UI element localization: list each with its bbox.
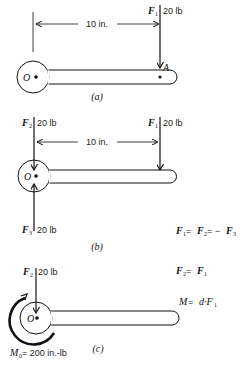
- force-magnitude: 20 lb: [163, 6, 183, 16]
- moment-label: M 0 = 200 in.-lb: [9, 347, 67, 359]
- svg-text:1: 1: [155, 123, 158, 129]
- caption-c: (c): [92, 343, 104, 355]
- lever-arm: O: [18, 160, 177, 192]
- pivot-dot: [34, 75, 38, 79]
- equation-c1: F 2 = F 1: [175, 265, 207, 277]
- pivot-dot: [35, 316, 39, 320]
- svg-text:20 lb: 20 lb: [38, 267, 58, 277]
- svg-text:F: F: [196, 225, 204, 236]
- caption-b: (b): [91, 241, 103, 253]
- svg-text:F: F: [225, 225, 233, 236]
- svg-text:M: M: [178, 296, 188, 307]
- svg-text:20 lb: 20 lb: [37, 225, 57, 235]
- point-a-label: A: [162, 62, 170, 73]
- svg-text:10 in.: 10 in.: [86, 137, 108, 147]
- force-f1-arrow: F 1 20 lb: [147, 117, 183, 170]
- svg-text:F: F: [147, 117, 155, 128]
- svg-text:20 lb: 20 lb: [37, 118, 57, 128]
- dimension-a: 10 in.: [36, 19, 158, 29]
- lever-arm: O A: [17, 61, 177, 93]
- svg-text:F: F: [196, 265, 204, 276]
- svg-text:2: 2: [30, 272, 33, 278]
- svg-text:F: F: [21, 224, 29, 235]
- svg-text:F: F: [21, 117, 29, 128]
- lever-force-diagram: 10 in. F 1 20 lb O A (a) F 2 20 lb F: [0, 0, 240, 367]
- svg-text:M: M: [9, 347, 19, 358]
- svg-text:3: 3: [29, 230, 32, 236]
- force-f1-arrow: F 1 20 lb: [147, 5, 183, 68]
- svg-text:O: O: [24, 171, 31, 182]
- pivot-label: O: [23, 72, 30, 83]
- svg-text:d·F: d·F: [199, 296, 214, 307]
- lever-arm: O: [20, 302, 179, 334]
- svg-text:=: =: [186, 226, 191, 236]
- svg-text:O: O: [27, 313, 34, 324]
- svg-text:3: 3: [233, 231, 236, 237]
- svg-text:2: 2: [29, 123, 32, 129]
- svg-text:=: =: [188, 297, 193, 307]
- svg-text:1: 1: [155, 11, 158, 17]
- equation-b: F 1 = F 2 = − F 3: [175, 225, 236, 237]
- svg-text:20 lb: 20 lb: [163, 118, 183, 128]
- figure-c: F 2 20 lb F 2 = F 1 M = d·F 1 O: [9, 265, 217, 359]
- svg-text:1: 1: [204, 271, 207, 277]
- svg-text:F: F: [147, 5, 155, 16]
- svg-text:1: 1: [214, 302, 217, 308]
- svg-text:F: F: [175, 265, 183, 276]
- equation-c2: M = d·F 1: [178, 296, 217, 308]
- figure-b: F 2 20 lb F 1 20 lb 10 in. O F 3 20 lb: [18, 117, 236, 253]
- figure-a: 10 in. F 1 20 lb O A (a): [17, 5, 183, 103]
- svg-text:F: F: [175, 225, 183, 236]
- svg-text:= −: = −: [207, 226, 220, 236]
- dimension-b: 10 in.: [37, 137, 157, 147]
- svg-text:F: F: [22, 266, 30, 277]
- force-f3-arrow: F 3 20 lb: [21, 184, 57, 236]
- force-f2-arrow: F 2 20 lb: [22, 266, 58, 313]
- svg-text:= 200 in.-lb: = 200 in.-lb: [22, 348, 67, 358]
- caption-a: (a): [91, 91, 103, 103]
- dimension-label: 10 in.: [86, 19, 108, 29]
- svg-text:=: =: [186, 266, 191, 276]
- pivot-dot: [34, 174, 38, 178]
- point-a-dot: [158, 75, 161, 78]
